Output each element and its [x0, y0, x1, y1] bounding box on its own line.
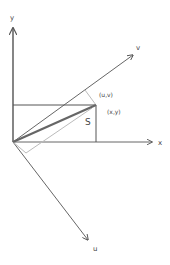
- projection-parallel: [26, 108, 92, 153]
- v-axis-label: v: [136, 44, 140, 52]
- uv-point-label: (u,v): [99, 91, 113, 98]
- position-vector: [13, 105, 96, 142]
- y-axis-label: y: [10, 14, 14, 22]
- rotation-diagram: y x v u (u,v) (x,y) S: [0, 0, 170, 265]
- v-axis: [13, 55, 133, 142]
- u-axis-label: u: [93, 245, 97, 253]
- u-axis: [13, 142, 88, 240]
- x-axis-label: x: [158, 139, 162, 147]
- xy-point-label: (x,y): [107, 108, 121, 116]
- projection-to-v: [85, 90, 96, 105]
- area-label: S: [85, 117, 91, 127]
- projection-to-u: [13, 142, 26, 153]
